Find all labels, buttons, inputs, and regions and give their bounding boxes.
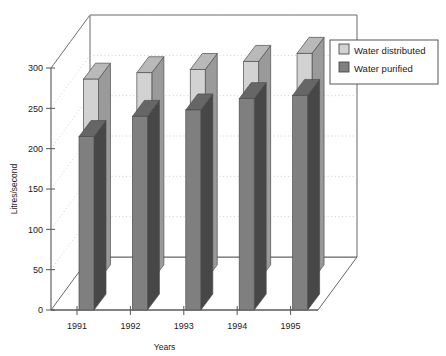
x-axis-tick-label: 1992: [120, 321, 140, 331]
bar-front-face: [239, 99, 254, 310]
bar-side-face: [308, 79, 320, 310]
y-axis-tick-label: 0: [38, 305, 43, 315]
x-axis-tick-label: 1993: [174, 321, 194, 331]
bar-front-face: [293, 95, 308, 310]
x-axis-tick-label: 1991: [67, 321, 87, 331]
y-axis-title: Litres/second: [9, 163, 19, 214]
y-axis-tick-label: 300: [28, 63, 43, 73]
legend-label: Water purified: [354, 63, 413, 74]
x-axis-tick-label: 1994: [227, 321, 247, 331]
bar-side-face: [201, 94, 213, 310]
y-axis-tick-label: 100: [28, 225, 43, 235]
legend: Water distributedWater purified: [330, 40, 438, 84]
x-axis-title: Years: [154, 342, 175, 352]
bar-front-face: [186, 110, 201, 310]
bar: [293, 79, 320, 310]
bar-side-face: [147, 100, 159, 310]
bar-front-face: [132, 116, 147, 310]
bar: [186, 94, 213, 310]
bar: [79, 121, 106, 310]
x-axis-tick-label: 1995: [281, 321, 301, 331]
legend-label: Water distributed: [354, 45, 425, 56]
y-axis-tick-label: 250: [28, 104, 43, 114]
bar-chart-3d: 050100150200250300Litres/second199119921…: [0, 0, 446, 356]
y-axis-tick-label: 150: [28, 184, 43, 194]
y-axis-tick-label: 50: [33, 265, 43, 275]
bar: [132, 100, 159, 310]
bar-front-face: [79, 137, 94, 310]
legend-swatch: [339, 62, 349, 72]
bar-side-face: [94, 121, 106, 310]
bar: [239, 83, 266, 310]
bar-side-face: [254, 83, 266, 310]
y-axis-tick-label: 200: [28, 144, 43, 154]
chart-container: 050100150200250300Litres/second199119921…: [0, 0, 446, 356]
legend-swatch: [339, 44, 349, 54]
